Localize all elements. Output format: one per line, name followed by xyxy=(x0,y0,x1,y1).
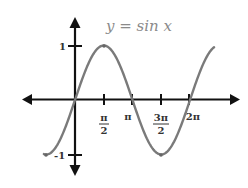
x-tick-label-2pi: 2π xyxy=(186,111,200,122)
svg-text:π: π xyxy=(100,112,107,123)
x-axis-right-arrow-icon xyxy=(230,94,240,105)
sine-chart: y = sin x 1 -1 π 2 π 3π 2 2π xyxy=(0,0,248,188)
x-axis-left-arrow-icon xyxy=(22,94,32,105)
chart-title: y = sin x xyxy=(105,17,173,35)
y-tick-label-neg1: -1 xyxy=(54,150,65,161)
x-tick-label-pi: π xyxy=(124,111,131,122)
y-axis-up-arrow-icon xyxy=(70,17,81,28)
y-tick-label-1: 1 xyxy=(59,41,66,52)
x-tick-label-3pi-over-2: 3π 2 xyxy=(153,112,169,136)
svg-text:2: 2 xyxy=(158,125,165,136)
svg-text:3π: 3π xyxy=(154,112,168,123)
x-tick-label-pi-over-2: π 2 xyxy=(99,112,109,136)
svg-text:2: 2 xyxy=(101,125,108,136)
y-axis-down-arrow-icon xyxy=(70,165,81,176)
